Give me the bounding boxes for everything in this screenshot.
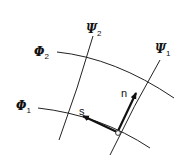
psi2-line	[59, 36, 93, 140]
psi1-line	[110, 60, 160, 155]
s-vector-arrow	[83, 116, 117, 132]
psi1-label: Ψ1	[155, 42, 171, 58]
node-point	[116, 131, 121, 136]
phi1-curve	[38, 108, 150, 148]
psi2-label: Ψ2	[86, 22, 102, 38]
s-label: s	[79, 105, 85, 117]
n-label: n	[121, 87, 127, 99]
phi1-label: Φ1	[16, 99, 31, 115]
phi2-curve	[57, 52, 174, 98]
flow-net-diagram: Ψ2 Φ2 Ψ1 Φ1 s n	[0, 0, 183, 163]
phi2-label: Φ2	[34, 45, 49, 61]
